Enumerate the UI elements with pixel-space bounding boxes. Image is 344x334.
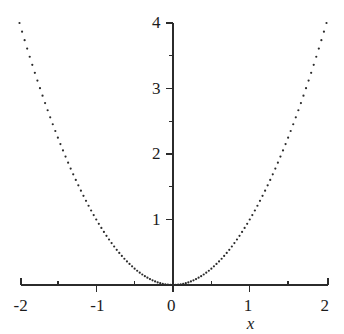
- data-point: [105, 235, 107, 237]
- data-point: [18, 22, 20, 24]
- data-point: [249, 218, 251, 220]
- x-axis-title: x: [247, 315, 255, 332]
- data-point: [157, 281, 159, 283]
- data-point: [210, 268, 212, 270]
- data-point: [231, 245, 233, 247]
- data-point: [62, 149, 64, 151]
- data-point: [121, 255, 123, 257]
- data-point: [172, 284, 174, 286]
- data-point: [31, 64, 33, 66]
- data-point: [300, 102, 302, 104]
- data-point: [59, 143, 61, 145]
- data-point: [164, 283, 166, 285]
- data-point: [213, 265, 215, 267]
- data-point: [254, 209, 256, 211]
- data-point: [259, 200, 261, 202]
- data-point: [221, 258, 223, 260]
- data-point: [149, 278, 151, 280]
- data-point: [279, 156, 281, 158]
- axes-group: [21, 23, 328, 285]
- data-point: [282, 149, 284, 151]
- data-point: [169, 284, 171, 286]
- data-point: [36, 79, 38, 81]
- data-point: [139, 272, 141, 274]
- data-point: [108, 238, 110, 240]
- data-point: [154, 280, 156, 282]
- data-point: [72, 173, 74, 175]
- data-point: [44, 102, 46, 104]
- data-point: [297, 109, 299, 111]
- data-point: [167, 284, 169, 286]
- data-point: [87, 205, 89, 207]
- data-point: [190, 280, 192, 282]
- data-point: [302, 95, 304, 97]
- data-point: [21, 31, 23, 33]
- y-tick-label: 4: [152, 14, 161, 31]
- data-point: [131, 265, 133, 267]
- data-point: [82, 195, 84, 197]
- data-point: [180, 283, 182, 285]
- data-point: [159, 282, 161, 284]
- data-point: [310, 72, 312, 74]
- data-point: [284, 143, 286, 145]
- data-point: [295, 116, 297, 118]
- data-point: [256, 205, 258, 207]
- data-point: [134, 268, 136, 270]
- data-point: [182, 283, 184, 285]
- data-point: [118, 252, 120, 254]
- x-tick-label: -1: [90, 297, 104, 314]
- data-point: [57, 137, 59, 139]
- data-point: [187, 281, 189, 283]
- y-tick-label: 1: [152, 211, 161, 228]
- data-point: [272, 173, 274, 175]
- data-point: [126, 260, 128, 262]
- data-point: [41, 95, 43, 97]
- data-point: [141, 273, 143, 275]
- y-tick-label: 3: [152, 80, 161, 97]
- data-point: [238, 235, 240, 237]
- data-point: [90, 209, 92, 211]
- data-point: [123, 258, 125, 260]
- x-tick-label: -2: [14, 297, 28, 314]
- data-point: [287, 137, 289, 139]
- data-point: [144, 275, 146, 277]
- data-point: [264, 190, 266, 192]
- data-point: [93, 214, 95, 216]
- data-point: [195, 278, 197, 280]
- data-point: [24, 39, 26, 41]
- data-point: [29, 56, 31, 58]
- data-point: [320, 39, 322, 41]
- data-point: [218, 260, 220, 262]
- data-point: [236, 238, 238, 240]
- data-point: [103, 231, 105, 233]
- data-point: [111, 242, 113, 244]
- data-point: [228, 249, 230, 251]
- data-point: [200, 275, 202, 277]
- data-point: [305, 87, 307, 89]
- data-point: [251, 214, 253, 216]
- data-point: [146, 277, 148, 279]
- data-point: [54, 130, 56, 132]
- data-point: [177, 284, 179, 286]
- data-point: [233, 242, 235, 244]
- data-point: [323, 31, 325, 33]
- data-point: [185, 282, 187, 284]
- data-point: [290, 130, 292, 132]
- data-point: [215, 263, 217, 265]
- data-point: [261, 195, 263, 197]
- data-point: [277, 162, 279, 164]
- data-point: [80, 190, 82, 192]
- axis-ticks-group: [21, 23, 328, 292]
- y-tick-label: 2: [152, 145, 161, 162]
- data-point: [75, 179, 77, 181]
- data-point: [315, 56, 317, 58]
- x-tick-label: 0: [167, 297, 176, 314]
- data-point: [52, 123, 54, 125]
- data-point: [116, 249, 118, 251]
- data-point: [313, 64, 315, 66]
- data-point: [203, 273, 205, 275]
- data-point: [292, 123, 294, 125]
- data-point: [77, 184, 79, 186]
- data-point: [98, 223, 100, 225]
- plot-svg: [0, 0, 344, 334]
